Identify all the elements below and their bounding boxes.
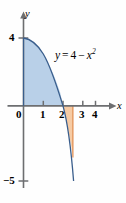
equation-exponent: 2 xyxy=(92,47,96,56)
equation-lhs: y xyxy=(55,49,60,61)
plot-canvas xyxy=(0,0,126,203)
x-tick-label-4: 4 xyxy=(92,108,98,120)
x-tick-label-2: 2 xyxy=(59,108,65,120)
equation-constant: 4 xyxy=(71,49,77,61)
y-tick-label-minus5: −5 xyxy=(3,174,15,186)
equation-minus: − xyxy=(78,49,85,61)
y-axis-label: y xyxy=(25,8,30,19)
x-axis-label: x xyxy=(117,100,122,111)
x-tick-label-3: 3 xyxy=(79,108,85,120)
figure-container: y x 4 −5 0 1 2 3 4 y=4−x2 xyxy=(0,0,126,203)
equation-equals: = xyxy=(62,49,69,61)
x-axis-arrow xyxy=(109,102,117,109)
equation-annotation: y=4−x2 xyxy=(55,47,96,61)
y-tick-label-4: 4 xyxy=(9,31,15,43)
x-tick-label-1: 1 xyxy=(40,108,46,120)
x-tick-label-0: 0 xyxy=(16,108,22,120)
